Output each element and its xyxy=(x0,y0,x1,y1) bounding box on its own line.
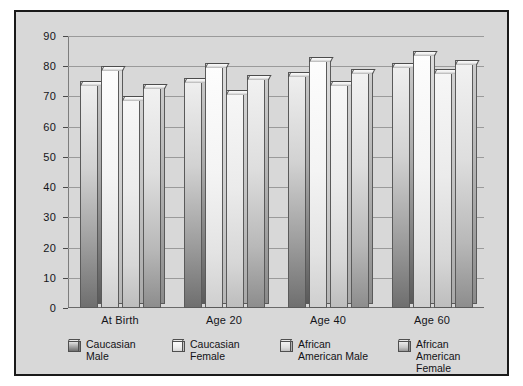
bar[interactable] xyxy=(455,60,473,308)
y-axis-tick-mark xyxy=(63,157,68,158)
bar-top-face xyxy=(309,57,333,62)
legend-item-label: Caucasian Male xyxy=(86,338,136,362)
legend-swatch-icon xyxy=(280,339,293,352)
bar-top-face xyxy=(247,75,271,80)
bar[interactable] xyxy=(351,69,369,308)
y-axis-tick-label: 70 xyxy=(22,90,56,102)
legend-item[interactable]: Caucasian Male xyxy=(68,338,136,362)
legend-swatch-face-face xyxy=(68,341,79,352)
bar-group xyxy=(380,36,484,308)
legend-item-label: Caucasian Female xyxy=(190,338,240,362)
y-axis-tick-mark xyxy=(63,66,68,67)
bar[interactable] xyxy=(330,81,348,308)
y-axis-tick-label: 50 xyxy=(22,151,56,163)
legend-swatch-icon xyxy=(172,339,185,352)
x-axis-tick-label: Age 60 xyxy=(380,314,484,326)
bar-face xyxy=(101,66,119,308)
y-axis-tick-mark xyxy=(63,308,68,309)
legend-swatch-top-face xyxy=(172,339,184,341)
bar-top-face xyxy=(205,63,229,68)
y-axis-tick-mark xyxy=(63,127,68,128)
bar-face xyxy=(288,72,306,308)
y-axis-tick-label: 30 xyxy=(22,211,56,223)
legend-item[interactable]: African American Female xyxy=(398,338,488,374)
y-axis-tick-label: 80 xyxy=(22,60,56,72)
bar[interactable] xyxy=(184,78,202,308)
bar-face xyxy=(226,90,244,308)
bar[interactable] xyxy=(434,69,452,308)
bar[interactable] xyxy=(205,63,223,308)
bar-side-face xyxy=(473,60,477,304)
y-axis-tick-label: 10 xyxy=(22,272,56,284)
legend-item-label: African American Female xyxy=(416,338,488,374)
y-axis-tick-label: 20 xyxy=(22,242,56,254)
y-axis-tick-mark xyxy=(63,217,68,218)
bar-face xyxy=(122,96,140,308)
legend-swatch-icon xyxy=(68,339,81,352)
y-axis-tick-label: 40 xyxy=(22,181,56,193)
legend-swatch-top-face xyxy=(398,339,410,341)
bar[interactable] xyxy=(80,81,98,308)
bar-face xyxy=(455,60,473,308)
bar-top-face xyxy=(413,51,437,56)
x-axis-tick-label: At Birth xyxy=(68,314,172,326)
bar-face xyxy=(80,81,98,308)
bar-group xyxy=(172,36,276,308)
bar[interactable] xyxy=(247,75,265,308)
legend-swatch-top-face xyxy=(68,339,80,341)
y-axis-tick-mark xyxy=(63,96,68,97)
legend-swatch-icon xyxy=(398,339,411,352)
bar[interactable] xyxy=(309,57,327,308)
bar[interactable] xyxy=(226,90,244,308)
y-axis-tick-mark xyxy=(63,187,68,188)
bar[interactable] xyxy=(101,66,119,308)
y-axis-tick-mark xyxy=(63,36,68,37)
bar-chart-figure: 0102030405060708090 At BirthAge 20Age 40… xyxy=(14,10,509,376)
legend-swatch-top-face xyxy=(280,339,292,341)
bar-top-face xyxy=(455,60,479,65)
bar-face xyxy=(330,81,348,308)
bar-face xyxy=(184,78,202,308)
legend-item[interactable]: African American Male xyxy=(280,338,368,362)
bar-face xyxy=(392,63,410,308)
y-axis-tick-label: 0 xyxy=(22,302,56,314)
bar[interactable] xyxy=(288,72,306,308)
bar-side-face xyxy=(265,75,269,304)
bar[interactable] xyxy=(122,96,140,308)
bar-top-face xyxy=(351,69,375,74)
x-axis-tick-label: Age 20 xyxy=(172,314,276,326)
bar-face xyxy=(309,57,327,308)
bar-group xyxy=(68,36,172,308)
legend-swatch-side-face xyxy=(291,341,293,352)
bar-side-face xyxy=(369,69,373,304)
legend-swatch-face-face xyxy=(398,341,409,352)
bar-face xyxy=(247,75,265,308)
bar-top-face xyxy=(143,84,167,89)
legend-swatch-side-face xyxy=(409,341,411,352)
y-axis-tick-label: 60 xyxy=(22,121,56,133)
bar-group xyxy=(276,36,380,308)
x-axis-tick-label: Age 40 xyxy=(276,314,380,326)
bar-side-face xyxy=(161,84,165,304)
y-axis-tick-label: 90 xyxy=(22,30,56,42)
bar-face xyxy=(143,84,161,308)
plot-area xyxy=(68,36,484,308)
bar[interactable] xyxy=(392,63,410,308)
legend-swatch-side-face xyxy=(183,341,185,352)
bar-face xyxy=(434,69,452,308)
y-axis-tick-mark xyxy=(63,248,68,249)
bar-face xyxy=(205,63,223,308)
legend-swatch-side-face xyxy=(79,341,81,352)
legend-item[interactable]: Caucasian Female xyxy=(172,338,240,362)
chart-legend: Caucasian MaleCaucasian FemaleAfrican Am… xyxy=(68,338,488,372)
bar[interactable] xyxy=(143,84,161,308)
legend-swatch-face-face xyxy=(172,341,183,352)
bar-top-face xyxy=(101,66,125,71)
legend-item-label: African American Male xyxy=(298,338,368,362)
bar-face xyxy=(351,69,369,308)
y-axis-tick-mark xyxy=(63,278,68,279)
bar-face xyxy=(413,51,431,308)
legend-swatch-face-face xyxy=(280,341,291,352)
bar[interactable] xyxy=(413,51,431,308)
